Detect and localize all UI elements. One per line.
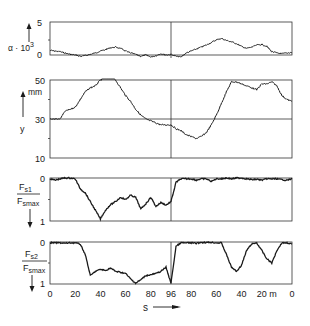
x-axis-ticks: 0204060809680604020 m0 xyxy=(47,289,294,299)
fs1-down-arrow-icon xyxy=(28,209,33,228)
fs2-tick-0: 0 xyxy=(40,238,45,248)
x-tick-label: 80 xyxy=(186,289,196,299)
fs2-tick-1: 1 xyxy=(40,279,45,289)
figure: 5 0 α · 103 50 30 10 mm y 0 1 xyxy=(0,0,310,326)
x-right-arrow-icon xyxy=(153,305,181,309)
alpha-up-arrow-icon xyxy=(27,23,32,42)
y-tick-30: 30 xyxy=(35,115,45,125)
svg-text:Fs1: Fs1 xyxy=(19,182,32,193)
fs1-tick-1: 1 xyxy=(40,217,45,227)
y-unit-label: mm xyxy=(28,87,42,97)
panel-fs1: 0 1 Fs1 Fsmax xyxy=(17,174,292,228)
panel-fs2: 0 1 Fs2 Fsmax xyxy=(22,238,292,292)
x-tick-label: 60 xyxy=(121,289,131,299)
x-axis-label: s xyxy=(143,302,181,313)
x-tick-label: 40 xyxy=(95,289,105,299)
alpha-tick-0: 0 xyxy=(37,50,42,60)
x-tick-label: 80 xyxy=(146,289,156,299)
fs1-tick-0: 0 xyxy=(40,174,45,184)
panel-y: 50 30 10 mm y xyxy=(20,76,292,164)
x-tick-label: 20 xyxy=(70,289,80,299)
y-axis-label: y xyxy=(20,124,25,134)
svg-text:s: s xyxy=(143,302,148,313)
x-tick-label: 0 xyxy=(289,289,294,299)
y-tick-10: 10 xyxy=(35,154,45,164)
x-tick-label: 20 m xyxy=(257,289,277,299)
svg-text:Fs2: Fs2 xyxy=(25,249,38,260)
fs2-ylabel: Fs2 Fsmax xyxy=(22,249,47,274)
y-tick-50: 50 xyxy=(35,76,45,86)
x-tick-label: 60 xyxy=(211,289,221,299)
y-up-arrow-icon xyxy=(21,91,26,117)
fs1-ylabel: Fs1 Fsmax xyxy=(17,182,40,207)
x-tick-label: 0 xyxy=(47,289,52,299)
alpha-tick-5: 5 xyxy=(37,18,42,28)
alpha-ylabel: α · 103 xyxy=(8,41,34,53)
x-tick-label: 96 xyxy=(166,289,176,299)
x-tick-label: 40 xyxy=(237,289,247,299)
panel-alpha: 5 0 α · 103 xyxy=(8,18,292,60)
svg-text:Fsmax: Fsmax xyxy=(17,196,40,207)
fs2-down-arrow-icon xyxy=(30,275,35,292)
svg-text:Fsmax: Fsmax xyxy=(23,263,46,274)
